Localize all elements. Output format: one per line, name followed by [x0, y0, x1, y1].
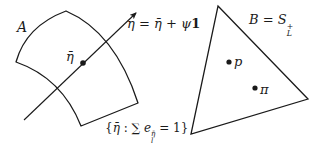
- eq-plus: +: [162, 16, 181, 31]
- constraint-equals-one: = 1: [155, 121, 180, 135]
- eq-psi: ψ: [181, 16, 191, 31]
- exp-scripts: η̄l: [151, 131, 155, 144]
- b-scripts: +L: [287, 23, 294, 37]
- point-pi: [252, 85, 257, 90]
- eq-lhs: η: [127, 16, 135, 31]
- eq-equals: =: [135, 16, 154, 31]
- constraint-colon: :: [120, 121, 132, 135]
- constraint-var: η̄: [113, 121, 120, 135]
- eta-bar-point: [80, 60, 86, 66]
- point-p: [226, 59, 231, 64]
- arrow-equation-label: η = η̄ + ψ1: [127, 17, 200, 30]
- constraint-label: {η̄ : ∑ eη̄l = 1}: [105, 122, 188, 144]
- point-p-label: p: [234, 55, 242, 68]
- region-a-label: A: [17, 20, 27, 34]
- region-b-label: B = S+L: [249, 13, 293, 37]
- eq-one-vector: 1: [191, 16, 200, 31]
- brace-close: }: [181, 121, 189, 135]
- b-equals: =: [259, 12, 278, 27]
- point-pi-label: π: [260, 83, 269, 96]
- exp-base: e: [144, 121, 151, 135]
- b-lhs: B: [249, 12, 259, 27]
- brace-open: {: [105, 121, 113, 135]
- eq-term1: η̄: [154, 16, 162, 31]
- eta-bar-label: η̄: [66, 50, 74, 63]
- direction-arrow: [24, 13, 136, 120]
- exp-subscript: l: [151, 138, 155, 144]
- b-subscript: L: [287, 30, 294, 37]
- b-set: S: [278, 12, 287, 27]
- sum-symbol: ∑: [132, 121, 144, 135]
